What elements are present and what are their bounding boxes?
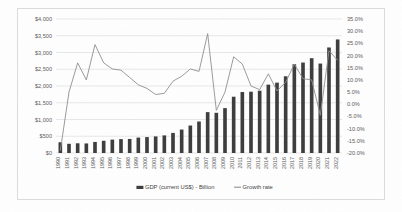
bar-2014 bbox=[267, 85, 271, 153]
bar-2003 bbox=[171, 133, 175, 153]
bar-2015 bbox=[275, 83, 279, 153]
bar-1991 bbox=[67, 144, 71, 153]
x-axis-tick-label-1992: 1992 bbox=[73, 157, 79, 169]
bar-2006 bbox=[197, 122, 201, 153]
x-axis-tick-label-2017: 2017 bbox=[289, 157, 295, 169]
bar-2001 bbox=[154, 136, 158, 153]
left-axis-tick-label: $2,500 bbox=[35, 66, 52, 72]
x-axis-tick-label-1990: 1990 bbox=[55, 157, 61, 169]
x-axis-tick-label-2006: 2006 bbox=[194, 157, 200, 169]
x-axis-tick-label-1999: 1999 bbox=[133, 157, 139, 169]
bar-1997 bbox=[119, 139, 123, 153]
x-axis-tick-label-2014: 2014 bbox=[263, 157, 269, 169]
bar-1994 bbox=[93, 142, 97, 153]
x-axis-tick-label-1994: 1994 bbox=[90, 157, 96, 169]
chart-plot-area: $0$500$1,000$1,500$2,000$2,500$3,000$3,5… bbox=[18, 9, 384, 199]
left-axis-tick-label: $3,000 bbox=[35, 50, 52, 56]
chart-card: $0$500$1,000$1,500$2,000$2,500$3,000$3,5… bbox=[17, 8, 385, 200]
x-axis-tick-label-2022: 2022 bbox=[333, 157, 339, 169]
x-axis-tick-label-2004: 2004 bbox=[177, 157, 183, 169]
x-axis-tick-label-1998: 1998 bbox=[125, 157, 131, 169]
x-axis-tick-label-2002: 2002 bbox=[159, 157, 165, 169]
bar-2004 bbox=[180, 130, 184, 153]
legend-swatch-gdp bbox=[136, 186, 143, 189]
x-axis-ticks: 1990199119921993199419951996199719981999… bbox=[55, 157, 338, 169]
right-axis-tick-label: -5.0% bbox=[347, 113, 362, 119]
bar-2022 bbox=[336, 39, 340, 153]
bar-2009 bbox=[223, 108, 227, 153]
right-axis-tick-label: -15.0% bbox=[347, 138, 365, 144]
right-axis-tick-label: 25.0% bbox=[347, 40, 363, 46]
bar-2005 bbox=[189, 126, 193, 153]
left-axis-tick-label: $3,500 bbox=[35, 33, 52, 39]
bar-2013 bbox=[258, 91, 262, 153]
x-axis-tick-label-1995: 1995 bbox=[99, 157, 105, 169]
bar-2019 bbox=[310, 58, 314, 153]
x-axis-tick-label-2019: 2019 bbox=[307, 157, 313, 169]
right-axis-tick-label: 5.0% bbox=[347, 89, 360, 95]
bar-1993 bbox=[85, 143, 89, 153]
bar-2011 bbox=[241, 92, 245, 153]
bar-2010 bbox=[232, 97, 236, 153]
bar-2012 bbox=[249, 92, 253, 153]
x-axis-tick-label-2012: 2012 bbox=[246, 157, 252, 169]
right-axis-tick-label: -20.0% bbox=[347, 150, 365, 156]
right-axis-tick-label: 0.0% bbox=[347, 101, 360, 107]
right-axis-tick-label: 20.0% bbox=[347, 53, 363, 59]
bar-1996 bbox=[111, 140, 115, 153]
chart-legend: GDP (current US$) - BillionGrowth rate bbox=[136, 184, 272, 190]
x-axis-tick-label-2003: 2003 bbox=[168, 157, 174, 169]
x-axis-tick-label-2008: 2008 bbox=[211, 157, 217, 169]
legend-label-gdp: GDP (current US$) - Billion bbox=[145, 184, 214, 190]
right-axis-tick-label: 15.0% bbox=[347, 65, 363, 71]
left-axis-tick-label: $2,000 bbox=[35, 83, 52, 89]
x-axis-tick-label-2009: 2009 bbox=[220, 157, 226, 169]
x-axis-tick-label-1996: 1996 bbox=[107, 157, 113, 169]
x-axis-tick-label-1993: 1993 bbox=[81, 157, 87, 169]
right-axis-ticks: -20.0%-15.0%-10.0%-5.0%0.0%5.0%10.0%15.0… bbox=[347, 16, 365, 156]
legend-label-growth-rate: Growth rate bbox=[243, 184, 273, 190]
x-axis-tick-label-2000: 2000 bbox=[142, 157, 148, 169]
bar-2007 bbox=[206, 112, 210, 153]
bar-2016 bbox=[284, 76, 288, 153]
x-axis-tick-label-1991: 1991 bbox=[64, 157, 70, 169]
x-axis-tick-label-2021: 2021 bbox=[324, 157, 330, 169]
x-axis-tick-label-2011: 2011 bbox=[237, 157, 243, 169]
bar-1995 bbox=[102, 141, 106, 153]
x-axis-tick-label-2020: 2020 bbox=[315, 157, 321, 169]
bar-2002 bbox=[163, 135, 167, 153]
x-axis-tick-label-2015: 2015 bbox=[272, 157, 278, 169]
right-axis-tick-label: 30.0% bbox=[347, 28, 363, 34]
bar-2017 bbox=[293, 64, 297, 153]
bar-1992 bbox=[76, 143, 80, 153]
right-axis-tick-label: 35.0% bbox=[347, 16, 363, 22]
bar-1999 bbox=[137, 138, 141, 153]
left-axis-ticks: $0$500$1,000$1,500$2,000$2,500$3,000$3,5… bbox=[35, 16, 52, 156]
right-axis-tick-label: 10.0% bbox=[347, 77, 363, 83]
bar-2008 bbox=[215, 113, 219, 153]
left-axis-tick-label: $1,500 bbox=[35, 100, 52, 106]
x-axis-tick-label-2016: 2016 bbox=[281, 157, 287, 169]
right-axis-tick-label: -10.0% bbox=[347, 126, 365, 132]
bar-1998 bbox=[128, 139, 132, 153]
x-axis-tick-label-1997: 1997 bbox=[116, 157, 122, 169]
left-axis-tick-label: $500 bbox=[40, 133, 52, 139]
left-axis-tick-label: $4,000 bbox=[35, 16, 52, 22]
combo-chart: $0$500$1,000$1,500$2,000$2,500$3,000$3,5… bbox=[18, 9, 384, 199]
x-axis-tick-label-2005: 2005 bbox=[185, 157, 191, 169]
x-axis-tick-label-2018: 2018 bbox=[298, 157, 304, 169]
x-axis-tick-label-2013: 2013 bbox=[255, 157, 261, 169]
left-axis-tick-label: $0 bbox=[46, 150, 52, 156]
bar-2000 bbox=[145, 137, 149, 153]
x-axis-tick-label-2001: 2001 bbox=[151, 157, 157, 169]
x-axis-tick-label-2007: 2007 bbox=[203, 157, 209, 169]
x-axis-tick-label-2010: 2010 bbox=[229, 157, 235, 169]
left-axis-tick-label: $1,000 bbox=[35, 117, 52, 123]
